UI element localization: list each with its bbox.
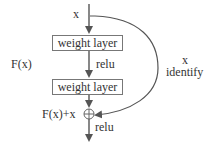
weight-layer-2: weight layer (52, 79, 123, 95)
shortcut-label-identify: identify (166, 66, 203, 78)
relu-mid-label: relu (96, 58, 115, 70)
input-label: x (73, 8, 79, 20)
sum-label: F(x)+x (42, 108, 75, 120)
weight-layer-1: weight layer (52, 35, 123, 51)
sum-icon (84, 109, 94, 119)
relu-out-label: relu (95, 121, 114, 133)
residual-label: F(x) (11, 58, 32, 70)
